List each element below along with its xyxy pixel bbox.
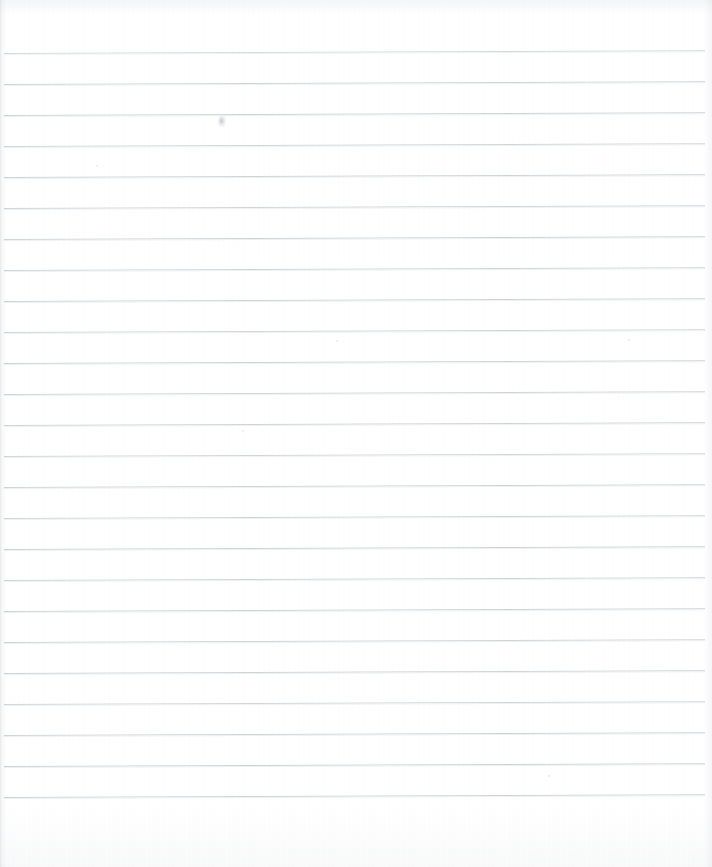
rule-line bbox=[4, 236, 705, 240]
rule-line bbox=[4, 670, 705, 674]
rule-line bbox=[4, 329, 705, 333]
dust-speck-artifact bbox=[96, 165, 98, 167]
rule-line bbox=[4, 267, 705, 271]
scanned-page bbox=[0, 0, 712, 867]
rule-line bbox=[4, 174, 705, 178]
rule-line bbox=[4, 639, 705, 643]
rule-line bbox=[4, 422, 705, 426]
rule-line bbox=[4, 701, 705, 705]
rule-line bbox=[4, 298, 705, 302]
rule-line bbox=[4, 484, 705, 488]
rule-line bbox=[4, 732, 705, 736]
rule-line bbox=[4, 391, 705, 395]
rule-line bbox=[4, 50, 705, 54]
dust-speck-artifact bbox=[336, 340, 338, 342]
rule-line bbox=[4, 577, 705, 581]
rule-line bbox=[4, 143, 705, 147]
rule-line bbox=[4, 112, 705, 116]
dust-speck-artifact bbox=[628, 339, 630, 341]
rule-line bbox=[4, 360, 705, 364]
dust-speck-artifact bbox=[548, 775, 550, 777]
rule-line bbox=[4, 81, 705, 85]
rule-line bbox=[4, 453, 705, 457]
ruled-lines-layer bbox=[0, 0, 712, 867]
rule-line bbox=[4, 794, 705, 798]
rule-line bbox=[4, 205, 705, 209]
scan-edge-shadow-bottom bbox=[0, 811, 712, 867]
rule-line bbox=[4, 546, 705, 550]
rule-line bbox=[4, 608, 705, 612]
scan-edge-shadow-left bbox=[0, 0, 7, 867]
rule-line bbox=[4, 515, 705, 519]
scan-edge-shadow-top bbox=[0, 0, 712, 14]
dust-speck-artifact bbox=[242, 430, 244, 432]
scan-edge-shadow-right bbox=[704, 0, 712, 867]
rule-line bbox=[4, 763, 705, 767]
